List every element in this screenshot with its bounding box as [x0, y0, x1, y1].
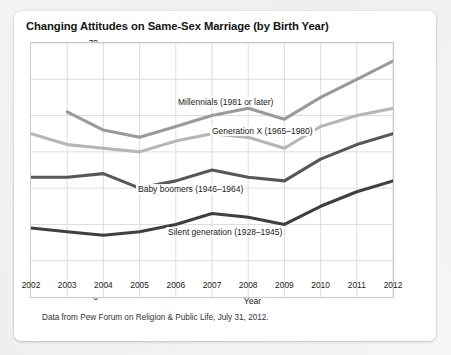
x-tick-label: 2010	[304, 280, 338, 290]
x-tick-label: 2002	[14, 280, 48, 290]
x-tick-label: 2003	[50, 280, 84, 290]
x-axis-title: Year	[0, 296, 451, 306]
series-annotation-0: Millennials (1981 or later)	[176, 97, 275, 107]
figure-title: Changing Attitudes on Same-Sex Marriage …	[26, 20, 329, 32]
x-tick-label: 2011	[340, 280, 374, 290]
x-tick-label: 2004	[86, 280, 120, 290]
plot-area	[30, 42, 394, 298]
x-axis-tick-labels: 2002200320042005200620072008200920102011…	[0, 280, 451, 296]
x-tick-label: 2005	[123, 280, 157, 290]
series-annotation-2: Baby boomers (1946–1964)	[136, 184, 245, 194]
x-axis-title-text: Year	[244, 296, 261, 306]
source-note: Data from Pew Forum on Religion & Public…	[42, 313, 269, 322]
x-tick-label: 2007	[195, 280, 229, 290]
x-tick-label: 2006	[159, 280, 193, 290]
line-chart-svg	[31, 43, 393, 297]
series-annotation-3: Silent generation (1928–1945)	[166, 227, 284, 237]
x-tick-label: 2012	[376, 280, 410, 290]
x-tick-label: 2008	[231, 280, 265, 290]
x-tick-label: 2009	[267, 280, 301, 290]
series-annotation-1: Generation X (1965–1980)	[210, 126, 315, 136]
